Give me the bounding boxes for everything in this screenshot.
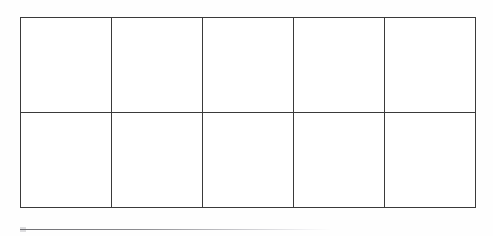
ten-frame-cell-6[interactable] [21,113,112,208]
ten-frame-cell-1[interactable] [21,18,112,113]
worksheet-page [0,0,493,236]
ten-frame-cell-9[interactable] [294,113,385,208]
ten-frame-cell-3[interactable] [203,18,294,113]
ten-frame-cell-2[interactable] [112,18,203,113]
baseline-rule [20,229,332,230]
ten-frame-cell-8[interactable] [203,113,294,208]
ten-frame-grid[interactable] [20,17,476,208]
ten-frame-cell-4[interactable] [294,18,385,113]
ten-frame-cell-7[interactable] [112,113,203,208]
ten-frame-cell-10[interactable] [385,113,476,208]
ten-frame-cell-5[interactable] [385,18,476,113]
